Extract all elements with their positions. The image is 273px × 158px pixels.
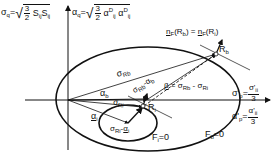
formula-alpha-p: α'p=α'ii3 (232, 107, 258, 126)
sqrt-icon: √ (15, 5, 23, 21)
point-Rb (214, 52, 218, 56)
label-Fi-eq-0: Fi=0 (152, 133, 169, 145)
formula-sigma-p: σ'p=σ'ii3 (232, 84, 259, 103)
point-Ri (141, 104, 145, 108)
formula-alpha-q: αq=√32 αDij αDij (72, 4, 130, 22)
beta-dashed-vector (144, 54, 216, 106)
label-Ri: Ri (148, 103, 156, 115)
formula-beta: β = σRb - σRi (164, 81, 208, 93)
sigma-Ri-vector (68, 100, 142, 107)
label-Fb-eq-0: Fb=0 (205, 130, 224, 142)
formula-sigma-q: σq=√32 SijSij (1, 4, 50, 22)
formula-normal-condition: nF(Rb) = nF(Ri) (166, 27, 218, 39)
sqrt-icon: √ (86, 5, 94, 21)
label-sigma-Ri-minus-alpha-i: σRi-αi (110, 124, 129, 136)
label-sigma-Ri: σRi (112, 97, 124, 110)
label-alpha-i: αi (91, 112, 98, 124)
sigma-Ri-minus-alpha-i-vector (128, 108, 142, 123)
label-Rb: Rb (219, 45, 229, 57)
label-alpha-b: αb (100, 89, 109, 101)
yield-surface-diagram (0, 0, 273, 158)
